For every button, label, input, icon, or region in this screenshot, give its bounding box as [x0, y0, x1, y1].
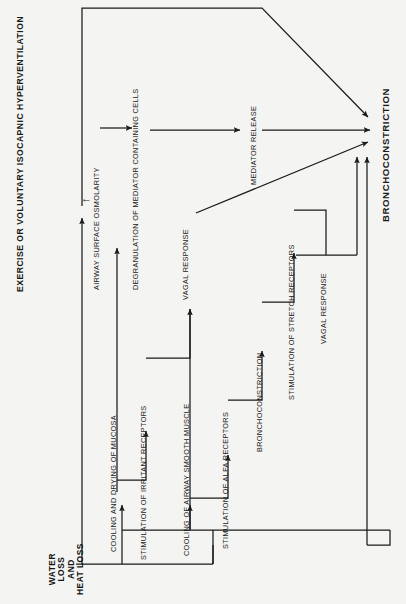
node-mediator-release: MEDIATOR RELEASE — [250, 106, 257, 185]
figure-title: EXERCISE OR VOLUNTARY ISOCAPNIC HYPERVEN… — [16, 16, 25, 292]
node-vagal-response-2: VAGAL RESPONSE — [320, 273, 327, 344]
node-stimulation-irritant-receptors: STIMULATION OF IRRITANT RECEPTORS — [140, 405, 147, 560]
node-water-heat-loss: WATER LOSS AND HEAT LOSS — [48, 543, 86, 595]
edge-longbus-corner — [367, 530, 390, 545]
node-vagal-response-1: VAGAL RESPONSE — [182, 229, 189, 300]
edge-vagal1-to-outcome — [196, 142, 368, 213]
edge-stretch-to-vagal2-elbow — [294, 210, 326, 255]
figure-canvas: EXERCISE OR VOLUNTARY ISOCAPNIC HYPERVEN… — [0, 0, 406, 604]
node-cooling-airway-smooth-muscle: COOLING OF AIRWAY SMOOTH MUSCLE — [183, 404, 190, 556]
flowchart-connectors — [0, 0, 406, 604]
node-bronchoconstriction-mid: BRONCHOCONSTRICTION — [256, 353, 263, 452]
edge-osmolarity-top-to-outcome — [82, 8, 368, 206]
node-degranulation: DEGRANULATION OF MEDIATOR CONTAINING CEL… — [132, 89, 139, 290]
edge-irritant-to-vagal1 — [146, 309, 190, 358]
increase-arrow-icon: ↑ — [79, 198, 91, 204]
node-airway-surface-osmolarity: AIRWAY SURFACE OSMOLARITY — [93, 167, 100, 290]
node-water-heat-loss-line-3: HEAT LOSS — [76, 543, 85, 595]
node-stimulation-alfa-receptors: STIMULATION OF ALFA RECEPTORS — [222, 412, 229, 549]
node-cooling-drying-mucosa: COOLING AND DRYING OF MUCOSA — [110, 415, 117, 552]
node-stimulation-stretch-receptors: STIMULATION OF STRETCH RECEPTORS — [288, 244, 295, 400]
node-outcome-bronchoconstriction: BRONCHOCONSTRICTION — [381, 88, 391, 222]
